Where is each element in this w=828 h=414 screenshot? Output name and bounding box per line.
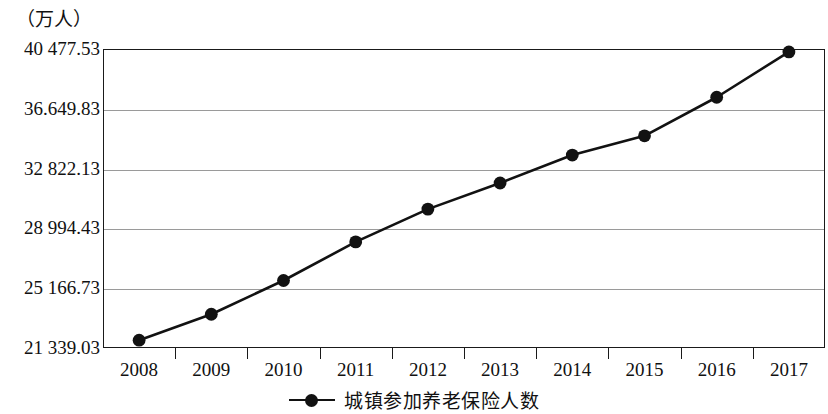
gridline [104,110,824,111]
x-axis-tick-mark [392,348,393,359]
y-axis-tick-label: 21 339.03 [4,338,100,357]
line-chart: （万人） 40 477.5336.649.8332 822.1328 994.4… [0,0,828,414]
x-axis-tick-mark [608,348,609,359]
x-axis-tick-label: 2008 [103,359,175,381]
x-axis-tick-mark [247,348,248,359]
legend-marker-icon [289,393,335,407]
y-axis-tick-label: 32 822.13 [4,159,100,178]
y-axis-tick-label: 28 994.43 [4,218,100,237]
gridline [104,170,824,171]
x-axis-tick-label: 2009 [175,359,247,381]
x-axis-tick-label: 2012 [392,359,464,381]
x-axis-tick-label: 2010 [248,359,320,381]
x-axis-tick-marks [103,348,825,359]
x-axis-tick-mark [175,348,176,359]
x-axis-tick-mark [320,348,321,359]
chart-legend: 城镇参加养老保险人数 [0,386,828,413]
x-axis-tick-mark [464,348,465,359]
x-axis-tick-mark [681,348,682,359]
x-axis-tick-label: 2011 [320,359,392,381]
x-axis-tick-label: 2017 [753,359,825,381]
x-axis-tick-label: 2016 [681,359,753,381]
gridline [104,229,824,230]
gridline [104,289,824,290]
plot-area [103,49,825,348]
legend-label: 城镇参加养老保险人数 [344,386,539,413]
y-axis-tick-label: 40 477.53 [4,39,100,58]
x-axis-tick-label: 2014 [536,359,608,381]
y-axis-tick-label: 36.649.83 [4,99,100,118]
y-axis-tick-label: 25 166.73 [4,278,100,297]
x-axis-tick-mark [536,348,537,359]
y-axis-tick-labels: 40 477.5336.649.8332 822.1328 994.4325 1… [0,0,100,414]
x-axis-tick-mark [753,348,754,359]
x-axis-tick-label: 2015 [609,359,681,381]
x-axis-tick-label: 2013 [464,359,536,381]
